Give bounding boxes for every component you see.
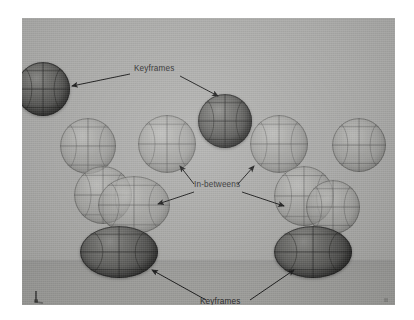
ball-wireframe [80, 226, 158, 278]
ball-wireframe [22, 62, 70, 116]
axis-gizmo-icon [32, 288, 46, 304]
ball-wireframe [138, 115, 196, 173]
ball-keyframe[interactable] [22, 62, 70, 116]
viewport-3d[interactable]: Keyframes In-betweens Keyframes [22, 18, 395, 305]
screenshot-root: Keyframes In-betweens Keyframes [0, 0, 414, 320]
ball-in-between[interactable] [138, 115, 196, 173]
ball-wireframe [274, 226, 352, 278]
ball-wireframe [250, 115, 308, 173]
ball-keyframe[interactable] [80, 226, 158, 278]
annotation-in-betweens: In-betweens [194, 180, 240, 189]
ball-wireframe [198, 94, 252, 148]
ball-in-between[interactable] [250, 115, 308, 173]
annotation-keyframes-top: Keyframes [134, 64, 174, 73]
annotation-keyframes-bottom: Keyframes [200, 297, 240, 305]
ball-wireframe [332, 118, 386, 172]
ball-keyframe[interactable] [198, 94, 252, 148]
corner-marker [384, 298, 388, 302]
ball-keyframe[interactable] [274, 226, 352, 278]
ball-keyframe[interactable] [332, 118, 386, 172]
